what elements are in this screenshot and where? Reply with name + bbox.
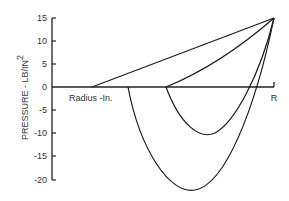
series-curve-deep xyxy=(128,18,274,190)
pressure-chart: 15 10 5 0 -5 -10 -15 -20 PRESSURE - LB/I… xyxy=(0,0,289,201)
series-linear xyxy=(92,18,274,87)
y-tick-5: 5 xyxy=(42,59,47,69)
y-tick-0: 0 xyxy=(42,82,47,92)
y-axis-title: PRESSURE - LB/IN 2 xyxy=(15,55,30,140)
svg-text:PRESSURE - LB/IN: PRESSURE - LB/IN xyxy=(20,60,30,140)
series-lines xyxy=(92,18,274,190)
series-curve-mid xyxy=(166,18,274,135)
y-tick-15: 15 xyxy=(37,13,47,23)
x-axis-title: Radius -In. xyxy=(69,93,113,103)
y-tick-neg20: -20 xyxy=(34,175,47,185)
svg-text:2: 2 xyxy=(15,55,25,60)
y-tick-neg5: -5 xyxy=(39,105,47,115)
y-tick-neg15: -15 xyxy=(34,151,47,161)
y-tick-neg10: -10 xyxy=(34,128,47,138)
r-label: R xyxy=(271,93,278,103)
y-tick-10: 10 xyxy=(37,36,47,46)
